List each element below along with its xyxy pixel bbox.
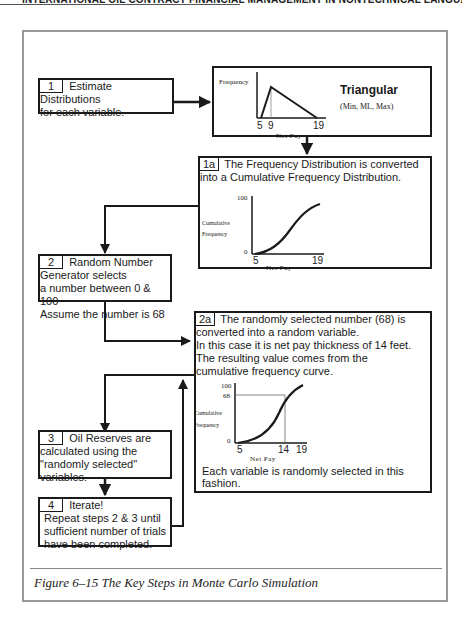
- triangular-tick-9: 9: [268, 119, 274, 132]
- cum2-y-mark: 68: [223, 390, 230, 403]
- triangular-tick-19: 19: [313, 119, 324, 132]
- step-3-box: 3Oil Reserves are calculated using the "…: [38, 430, 172, 479]
- step-2-box: 2Random Number Generator selects a numbe…: [38, 254, 172, 302]
- step-4-number: 4: [40, 499, 63, 512]
- figure-caption: Figure 6–15 The Key Steps in Monte Carlo…: [34, 575, 318, 591]
- step-4-text: Repeat steps 2 & 3 until sufficient numb…: [40, 512, 170, 551]
- cum1-tick-5: 5: [253, 254, 259, 267]
- step-4-title: Iterate!: [69, 499, 103, 511]
- step-2a-footer: Each variable is randomly selected in th…: [202, 465, 404, 489]
- cum1-tick-19: 19: [312, 254, 323, 267]
- cum2-y-bottom: 0: [227, 435, 231, 448]
- triangular-tick-5: 5: [257, 119, 263, 132]
- cum1-x-label: Net Pay: [266, 262, 292, 275]
- step-3-number: 3: [40, 432, 63, 445]
- cum1-y-label-2: Frequency: [202, 228, 227, 241]
- step-2-number: 2: [40, 256, 63, 269]
- step-1a-box: 1aThe Frequency Distribution is converte…: [198, 156, 432, 269]
- step-4-box: 4Iterate! Repeat steps 2 & 3 until suffi…: [38, 497, 172, 547]
- caption-rule: [30, 568, 442, 569]
- triangular-title: Triangular: [340, 84, 398, 97]
- step-2a-box: 2aThe randomly selected number (68) is c…: [194, 311, 432, 493]
- cum2-y-label-2: Frequency: [194, 419, 219, 432]
- cum1-y-top: 100: [237, 192, 248, 205]
- step-1-number: 1: [40, 80, 63, 93]
- step-1-box: 1Estimate Distributions for each variabl…: [38, 78, 174, 114]
- cum2-tick-19: 19: [296, 443, 307, 456]
- triangular-x-label: Net Pay: [276, 130, 302, 143]
- cum1-y-bottom: 0: [244, 246, 248, 259]
- cum2-tick-14: 14: [278, 443, 289, 456]
- triangular-subtitle: (Min, ML, Max): [340, 100, 393, 113]
- triangular-box: Frequency 5 9 19 Net Pay Triangular (Min…: [212, 66, 432, 137]
- cum2-tick-5: 5: [237, 443, 243, 456]
